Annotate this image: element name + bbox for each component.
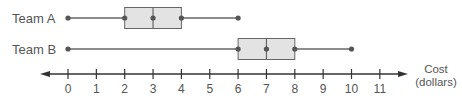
- summary-point: [264, 46, 269, 51]
- box-plot-chart: Team ATeam B 01234567891011Cost(dollars): [0, 0, 462, 99]
- series-label: Team A: [12, 11, 56, 26]
- summary-point: [65, 46, 70, 51]
- summary-point: [236, 46, 241, 51]
- summary-point: [236, 15, 241, 20]
- box-plot-row: Team A: [12, 8, 241, 29]
- tick-label: 7: [263, 82, 270, 96]
- tick-label: 8: [291, 82, 298, 96]
- tick-label: 3: [150, 82, 157, 96]
- summary-point: [179, 15, 184, 20]
- box-plot-rows: Team ATeam B: [12, 8, 354, 60]
- tick-label: 2: [121, 82, 128, 96]
- tick-label: 1: [93, 82, 100, 96]
- arrow-left-icon: [40, 71, 50, 77]
- tick-label: 5: [206, 82, 213, 96]
- summary-point: [150, 15, 155, 20]
- series-label: Team B: [12, 42, 56, 57]
- tick-label: 6: [235, 82, 242, 96]
- x-axis-title-line1: Cost: [424, 63, 448, 75]
- summary-point: [122, 15, 127, 20]
- x-axis: 01234567891011Cost(dollars): [40, 63, 457, 96]
- x-axis-title-line2: (dollars): [415, 76, 457, 88]
- summary-point: [292, 46, 297, 51]
- tick-label: 10: [345, 82, 359, 96]
- arrow-right-icon: [398, 71, 408, 77]
- summary-point: [65, 15, 70, 20]
- box-plot-row: Team B: [12, 39, 354, 60]
- tick-label: 4: [178, 82, 185, 96]
- tick-label: 11: [374, 82, 387, 96]
- summary-point: [349, 46, 354, 51]
- tick-label: 0: [65, 82, 72, 96]
- tick-label: 9: [320, 82, 327, 96]
